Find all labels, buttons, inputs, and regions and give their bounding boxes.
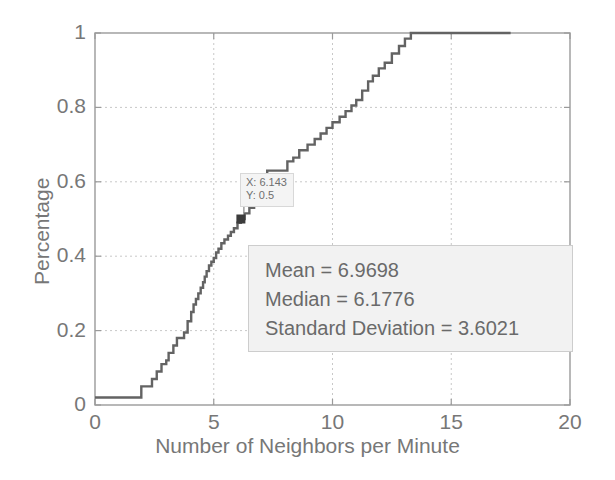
datatip-marker bbox=[236, 215, 245, 224]
y-tick-label: 1 bbox=[74, 21, 86, 42]
x-tick-label: 10 bbox=[303, 411, 363, 432]
stat-mean: Mean = 6.9698 bbox=[265, 256, 572, 285]
stat-median: Median = 6.1776 bbox=[265, 285, 572, 314]
y-tick-label: 0.6 bbox=[57, 170, 86, 191]
y-tick-label: 0.2 bbox=[57, 319, 86, 340]
datatip-y-value: Y: 0.5 bbox=[246, 189, 287, 202]
datatip-x-value: X: 6.143 bbox=[246, 176, 287, 189]
x-tick-label: 0 bbox=[65, 411, 125, 432]
y-axis-title: Percentage bbox=[30, 178, 54, 285]
x-axis-title: Number of Neighbors per Minute bbox=[0, 434, 615, 458]
plot-canvas bbox=[0, 0, 615, 480]
y-tick-label: 0.4 bbox=[57, 244, 86, 265]
stat-standard-deviation: Standard Deviation = 3.6021 bbox=[265, 314, 572, 343]
cdf-chart-figure: 00.20.40.60.81 05101520 Percentage Numbe… bbox=[0, 0, 615, 480]
y-tick-label: 0.8 bbox=[57, 95, 86, 116]
x-tick-label: 20 bbox=[540, 411, 600, 432]
x-tick-label: 5 bbox=[184, 411, 244, 432]
x-tick-label: 15 bbox=[421, 411, 481, 432]
statistics-textbox: Mean = 6.9698 Median = 6.1776 Standard D… bbox=[248, 245, 573, 352]
datatip-callout: X: 6.143 Y: 0.5 bbox=[240, 173, 294, 207]
